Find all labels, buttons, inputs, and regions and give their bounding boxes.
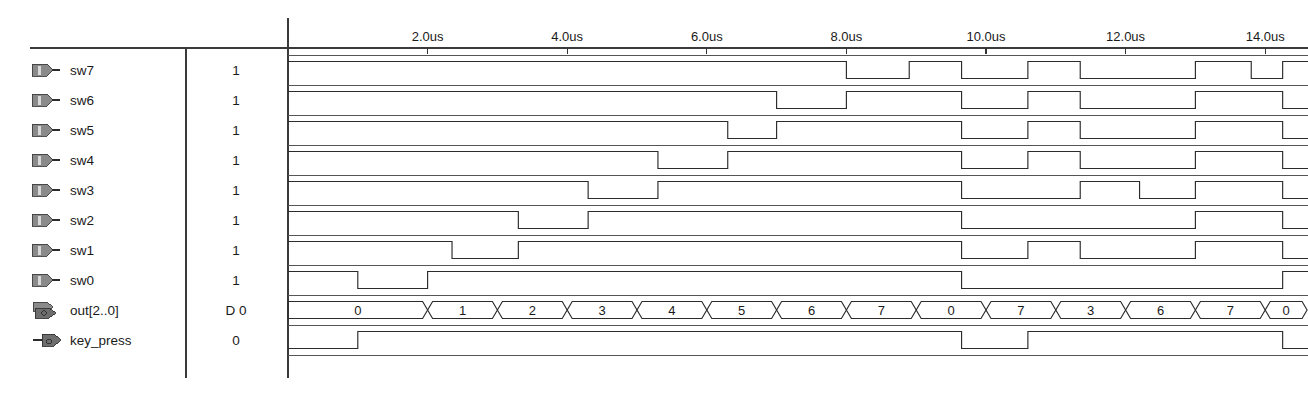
waveform-row[interactable]: 01234567073670 xyxy=(288,302,1307,319)
bit-waveform xyxy=(288,182,1308,199)
bus-segment-label: 5 xyxy=(738,303,745,318)
bus-segment-label: 7 xyxy=(878,303,885,318)
signal-name[interactable]: sw5 xyxy=(70,123,94,138)
bus-segment-label: 0 xyxy=(947,303,954,318)
input-pin-icon xyxy=(32,244,60,256)
bit-waveform xyxy=(288,92,1308,109)
signal-value: D 0 xyxy=(225,303,246,318)
input-pin-icon xyxy=(32,64,60,76)
signal-name[interactable]: sw3 xyxy=(70,183,94,198)
output-pin-icon xyxy=(33,334,61,346)
signal-name-column[interactable]: sw7sw6sw5sw4sw3sw2sw1sw0out[2..0]key_pre… xyxy=(32,63,132,348)
signal-value: 1 xyxy=(232,63,240,78)
input-pin-icon xyxy=(32,274,60,286)
signal-name[interactable]: sw1 xyxy=(70,243,94,258)
time-tick-label: 6.0us xyxy=(691,29,723,44)
time-tick-label: 2.0us xyxy=(412,29,444,44)
bus-segment-label: 6 xyxy=(808,303,815,318)
signal-name[interactable]: key_press xyxy=(70,333,132,348)
signal-value: 1 xyxy=(232,123,240,138)
signal-name[interactable]: sw6 xyxy=(70,93,94,108)
waveform-row[interactable] xyxy=(288,92,1308,109)
bus-segment-label: 6 xyxy=(1157,303,1164,318)
frame-layer xyxy=(30,18,1308,378)
grid-layer xyxy=(288,55,1308,355)
bit-waveform xyxy=(288,242,1308,259)
waveform-row[interactable] xyxy=(288,332,1308,349)
bus-segment-label: 7 xyxy=(1017,303,1024,318)
signal-name[interactable]: out[2..0] xyxy=(70,303,119,318)
waveform-row[interactable] xyxy=(288,182,1308,199)
signal-value: 1 xyxy=(232,243,240,258)
input-pin-icon xyxy=(32,94,60,106)
waveform-row[interactable] xyxy=(288,272,1308,289)
output-bus-icon xyxy=(33,302,56,318)
signal-name[interactable]: sw2 xyxy=(70,213,94,228)
signal-value: 1 xyxy=(232,93,240,108)
signal-value: 1 xyxy=(232,183,240,198)
time-tick-label: 12.0us xyxy=(1106,29,1146,44)
waveform-canvas[interactable]: 2.0us4.0us6.0us8.0us10.0us12.0us14.0us s… xyxy=(0,0,1308,396)
signal-value: 1 xyxy=(232,153,240,168)
signal-value: 1 xyxy=(232,213,240,228)
input-pin-icon xyxy=(32,214,60,226)
time-tick-label: 8.0us xyxy=(830,29,862,44)
bit-waveform xyxy=(288,122,1308,139)
waveform-row[interactable] xyxy=(288,122,1308,139)
bus-segment-label: 4 xyxy=(668,303,675,318)
waveform-row[interactable] xyxy=(288,242,1308,259)
input-pin-icon xyxy=(32,154,60,166)
signal-name[interactable]: sw0 xyxy=(70,273,94,288)
bus-segment-label: 3 xyxy=(598,303,605,318)
bit-waveform xyxy=(288,152,1308,169)
time-axis[interactable]: 2.0us4.0us6.0us8.0us10.0us12.0us14.0us xyxy=(412,29,1286,54)
waveform-viewer: 2.0us4.0us6.0us8.0us10.0us12.0us14.0us s… xyxy=(0,0,1308,396)
signal-name[interactable]: sw7 xyxy=(70,63,94,78)
waveform-row[interactable] xyxy=(288,152,1308,169)
bit-waveform xyxy=(288,212,1308,229)
bus-segment-label: 0 xyxy=(354,303,361,318)
bus-segment-label: 7 xyxy=(1227,303,1234,318)
input-pin-icon xyxy=(32,184,60,196)
bit-waveform xyxy=(288,272,1308,289)
waveform-row[interactable] xyxy=(288,62,1308,79)
signal-value: 1 xyxy=(232,273,240,288)
bus-segment-label: 0 xyxy=(1283,303,1290,318)
signal-value-column: 11111111D 00 xyxy=(225,63,246,348)
bit-waveform xyxy=(288,62,1308,79)
time-tick-label: 14.0us xyxy=(1246,29,1286,44)
bus-segment-label: 3 xyxy=(1087,303,1094,318)
time-tick-label: 10.0us xyxy=(966,29,1006,44)
time-tick-label: 4.0us xyxy=(551,29,583,44)
bus-segment-label: 2 xyxy=(529,303,536,318)
waveform-row[interactable] xyxy=(288,212,1308,229)
signal-value: 0 xyxy=(232,333,240,348)
bit-waveform xyxy=(288,332,1308,349)
bus-segment-label: 1 xyxy=(459,303,466,318)
signal-name[interactable]: sw4 xyxy=(70,153,94,168)
input-pin-icon xyxy=(32,124,60,136)
